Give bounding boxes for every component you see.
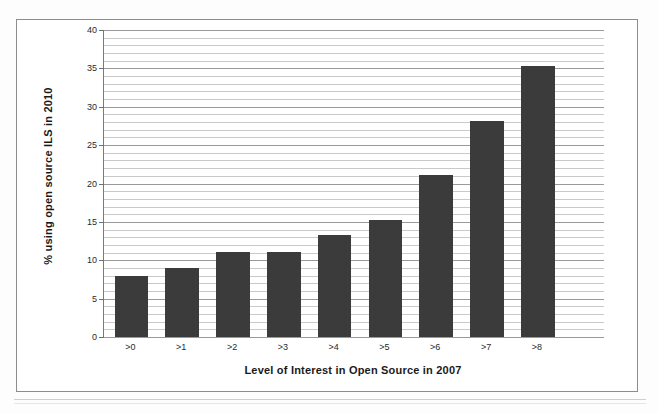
y-axis-tick-labels: 0510152025303540 bbox=[69, 30, 97, 337]
bar[interactable] bbox=[165, 268, 199, 337]
x-axis-tick-label: >6 bbox=[430, 342, 440, 352]
bar[interactable] bbox=[470, 121, 504, 337]
bar-slot bbox=[157, 30, 208, 337]
figure-frame: % using open source ILS in 2010 05101520… bbox=[16, 19, 638, 392]
bar-slot bbox=[512, 30, 563, 337]
page-rule-line-secondary bbox=[14, 403, 646, 404]
bar[interactable] bbox=[318, 235, 352, 337]
y-axis-tick-mark bbox=[99, 337, 104, 338]
x-axis-tick-label: >3 bbox=[278, 342, 288, 352]
x-axis-tick-label: >7 bbox=[481, 342, 491, 352]
y-axis-tick-label: 40 bbox=[87, 25, 97, 35]
x-axis-title: Level of Interest in Open Source in 2007 bbox=[103, 364, 603, 376]
y-axis-tick-label: 25 bbox=[87, 140, 97, 150]
scanned-page: % using open source ILS in 2010 05101520… bbox=[0, 0, 658, 413]
x-axis-tick-label: >4 bbox=[328, 342, 338, 352]
page-rule-line bbox=[14, 399, 646, 400]
y-axis-tick-label: 5 bbox=[92, 294, 97, 304]
plot-area bbox=[103, 30, 604, 338]
x-axis-tick-label: >0 bbox=[125, 342, 135, 352]
gridline-major bbox=[104, 337, 604, 338]
x-axis-tick-label: >5 bbox=[379, 342, 389, 352]
bar-slot bbox=[208, 30, 259, 337]
bar[interactable] bbox=[267, 252, 301, 337]
x-axis-tick-label: >2 bbox=[227, 342, 237, 352]
bar[interactable] bbox=[521, 66, 555, 337]
bar-slot bbox=[411, 30, 462, 337]
bar[interactable] bbox=[369, 220, 403, 337]
y-axis-title: % using open source ILS in 2010 bbox=[42, 66, 54, 286]
bar-chart: % using open source ILS in 2010 05101520… bbox=[17, 20, 639, 393]
y-axis-tick-label: 20 bbox=[87, 179, 97, 189]
bar[interactable] bbox=[115, 276, 149, 337]
x-axis-tick-labels: >0>1>2>3>4>5>6>7>8 bbox=[103, 342, 603, 358]
bar-slot bbox=[360, 30, 411, 337]
y-axis-tick-label: 35 bbox=[87, 63, 97, 73]
bar-slot bbox=[106, 30, 157, 337]
y-axis-tick-label: 15 bbox=[87, 217, 97, 227]
x-axis-tick-label: >8 bbox=[532, 342, 542, 352]
bar-slot bbox=[462, 30, 513, 337]
x-axis-tick-label: >1 bbox=[176, 342, 186, 352]
bar[interactable] bbox=[216, 252, 250, 337]
y-axis-tick-label: 10 bbox=[87, 255, 97, 265]
bar-slot bbox=[258, 30, 309, 337]
bar-series bbox=[104, 30, 604, 337]
bar-slot bbox=[309, 30, 360, 337]
y-axis-tick-label: 30 bbox=[87, 102, 97, 112]
y-axis-tick-label: 0 bbox=[92, 332, 97, 342]
bar[interactable] bbox=[419, 175, 453, 337]
